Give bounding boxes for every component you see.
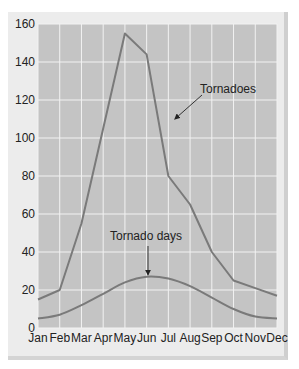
y-tick-label: 160 <box>15 17 35 31</box>
x-tick-label: Apr <box>94 331 113 345</box>
x-tick-label: Aug <box>179 331 200 345</box>
y-tick-label: 100 <box>15 131 35 145</box>
annotation-label-tornadoes: Tornadoes <box>200 82 256 96</box>
y-tick-label: 80 <box>22 169 36 183</box>
x-axis-ticks: JanFebMarAprMayJunJulAugSepOctNovDec <box>28 331 287 345</box>
x-tick-label: Oct <box>224 331 243 345</box>
y-tick-label: 140 <box>15 55 35 69</box>
x-tick-label: Mar <box>71 331 92 345</box>
x-tick-label: Feb <box>49 331 70 345</box>
x-tick-label: May <box>114 331 137 345</box>
y-tick-label: 120 <box>15 93 35 107</box>
y-tick-label: 60 <box>22 207 36 221</box>
y-tick-label: 20 <box>22 283 36 297</box>
x-tick-label: Jul <box>161 331 176 345</box>
x-tick-label: Jan <box>28 331 47 345</box>
x-tick-label: Jun <box>137 331 156 345</box>
x-tick-label: Nov <box>245 331 266 345</box>
x-tick-label: Sep <box>201 331 223 345</box>
x-tick-label: Dec <box>266 331 287 345</box>
y-tick-label: 40 <box>22 245 36 259</box>
annotation-label-tornado-days: Tornado days <box>110 229 182 243</box>
line-chart: 020406080100120140160 JanFebMarAprMayJun… <box>0 0 299 369</box>
y-axis-ticks: 020406080100120140160 <box>15 17 35 335</box>
